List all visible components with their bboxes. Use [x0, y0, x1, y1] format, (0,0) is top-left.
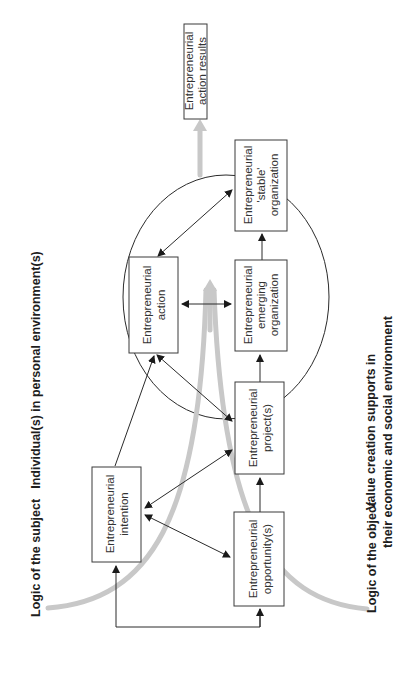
heading-value-creation-2: their economic and social environment [381, 315, 395, 548]
action-results-label-2: action results [196, 37, 208, 105]
arrow-intention-to-action [115, 356, 154, 466]
stable-org-label-2: 'stable' [255, 167, 267, 202]
action-label-1: Entrepreneurial [141, 266, 153, 345]
action-label-2: action [155, 290, 167, 321]
opportunity-label-2: opportunity(s) [261, 524, 273, 594]
arrow-intention-opportunity [145, 515, 230, 557]
emerging-org-label-3: organization [268, 274, 280, 337]
stable-org-label-1: Entrepreneurial [242, 146, 254, 225]
heading-logic-subject: Logic of the subject [29, 498, 43, 617]
project-label-1: Entrepreneurial [247, 389, 259, 468]
action-results-label-1: Entrepreneurial [183, 32, 195, 111]
intention-label-1: Entrepreneurial [104, 475, 116, 554]
project-label-2: project(s) [261, 404, 273, 452]
box-opportunity [234, 512, 284, 606]
intention-label-2: intention [118, 492, 130, 535]
stable-org-label-3: organization [268, 154, 280, 217]
emerging-org-label-2: emerging [255, 281, 267, 329]
box-intention [92, 467, 141, 562]
heading-logic-object: Logic of the object [365, 501, 379, 613]
entrepreneurship-process-diagram: Entrepreneurial action results Entrepren… [0, 0, 418, 681]
box-project [235, 382, 284, 474]
heading-individuals: Individual(s) in personal environment(s) [29, 251, 43, 489]
opportunity-label-1: Entrepreneurial [247, 520, 259, 599]
heading-value-creation-1: Value creation supports in [364, 354, 378, 510]
arrow-action-stable [158, 190, 232, 256]
box-action [129, 257, 178, 353]
emerging-org-label-1: Entrepreneurial [242, 266, 254, 345]
